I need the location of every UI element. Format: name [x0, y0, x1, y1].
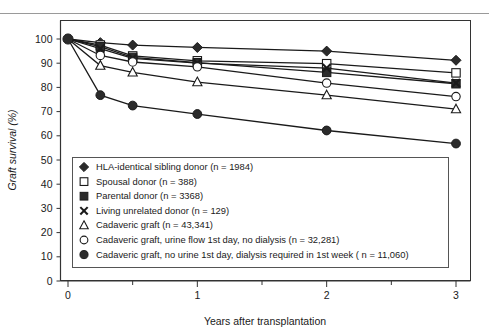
filled-circle-marker-icon [193, 110, 202, 119]
filled-circle-marker-icon [80, 251, 88, 259]
open-circle-marker-icon [80, 236, 88, 244]
y-tick-label: 0 [47, 275, 53, 287]
x-tick-label: 1 [194, 289, 200, 301]
filled-circle-marker-icon [96, 91, 105, 100]
chart-legend: HLA-identical sibling donor (n = 1984)Sp… [73, 158, 449, 268]
y-tick-label: 20 [41, 226, 53, 238]
legend-item-label: Cadaveric graft, urine flow 1st day, no … [96, 234, 339, 245]
legend-item-label: Parental donor (n = 3368) [96, 190, 203, 201]
filled-circle-marker-icon [63, 34, 73, 44]
x-tick-label: 3 [453, 289, 459, 301]
x-tick-label: 0 [65, 289, 71, 301]
open-square-marker-icon [452, 69, 460, 77]
y-tick-label: 70 [41, 105, 53, 117]
y-tick-label: 10 [41, 250, 53, 262]
x-axis-title: Years after transplantation [204, 315, 326, 327]
open-circle-marker-icon [322, 79, 330, 87]
y-axis-tick-labels: 0102030405060708090100 [35, 33, 53, 287]
legend-item-label: Cadaveric graft (n = 43,341) [96, 219, 213, 230]
legend-item-label: Spousal donor (n = 388) [96, 176, 197, 187]
open-circle-marker-icon [193, 63, 201, 71]
y-tick-label: 80 [41, 81, 53, 93]
y-tick-label: 90 [41, 57, 53, 69]
open-circle-marker-icon [452, 92, 460, 100]
y-tick-label: 30 [41, 202, 53, 214]
legend-item-label: HLA-identical sibling donor (n = 1984) [96, 161, 253, 172]
x-tick-label: 2 [324, 289, 330, 301]
figure-root: 0102030405060708090100 0123 Years after … [0, 0, 489, 332]
y-tick-label: 40 [41, 178, 53, 190]
legend-item-label: Cadaveric graft, no urine 1st day, dialy… [96, 249, 409, 260]
open-circle-marker-icon [128, 58, 136, 66]
filled-circle-marker-icon [322, 126, 331, 135]
filled-square-marker-icon [80, 192, 88, 200]
graft-survival-line-chart: 0102030405060708090100 0123 Years after … [0, 0, 489, 332]
legend-item-label: Living unrelated donor (n = 129) [96, 205, 229, 216]
open-circle-marker-icon [96, 51, 104, 59]
y-tick-label: 60 [41, 129, 53, 141]
x-axis-ticks [61, 281, 471, 287]
y-axis-title: Graft survival (%) [6, 109, 18, 190]
filled-circle-marker-icon [452, 139, 461, 148]
open-square-marker-icon [80, 178, 88, 186]
y-tick-label: 50 [41, 154, 53, 166]
x-axis-tick-labels: 0123 [65, 289, 459, 301]
y-tick-label: 100 [35, 33, 53, 45]
y-axis-ticks [57, 21, 61, 282]
filled-circle-marker-icon [128, 101, 137, 110]
